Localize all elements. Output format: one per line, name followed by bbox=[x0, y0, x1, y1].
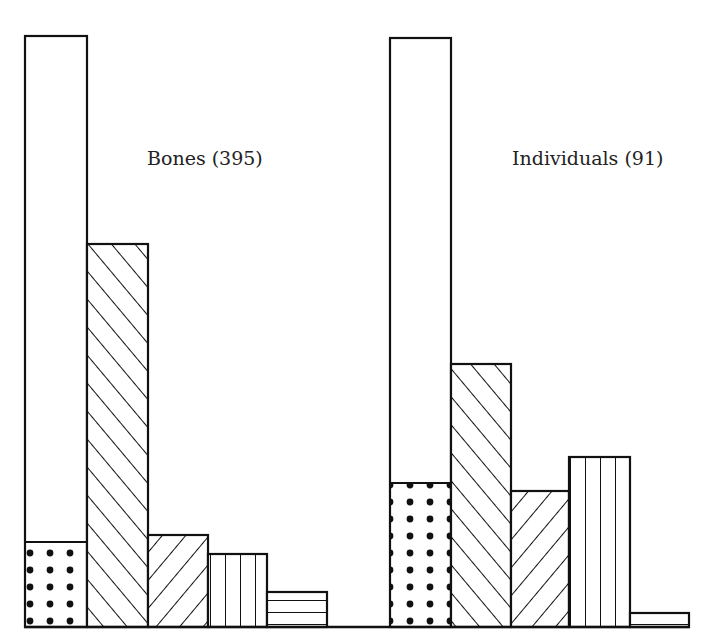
bar-diagonal-backward bbox=[511, 491, 569, 627]
dotted-segment bbox=[25, 542, 87, 627]
dotted-segment bbox=[390, 483, 451, 627]
bar-group-individuals bbox=[390, 38, 689, 627]
bar-diagonal-forward bbox=[451, 364, 511, 627]
bar-vertical-lines bbox=[208, 554, 267, 627]
bar-vertical-lines bbox=[569, 457, 630, 627]
bar-group-bones bbox=[25, 36, 327, 627]
bar-plain-with-dotted-base bbox=[390, 38, 451, 627]
bar-diagonal-forward bbox=[87, 244, 148, 627]
bar-diagonal-backward bbox=[148, 535, 208, 627]
bar-plain-with-dotted-base bbox=[25, 36, 87, 627]
bar-chart bbox=[0, 0, 710, 644]
bar-horizontal-lines bbox=[267, 592, 327, 627]
group-label-individuals: Individuals (91) bbox=[512, 147, 663, 169]
group-label-bones: Bones (395) bbox=[147, 147, 263, 169]
bar-horizontal-lines bbox=[630, 613, 689, 627]
